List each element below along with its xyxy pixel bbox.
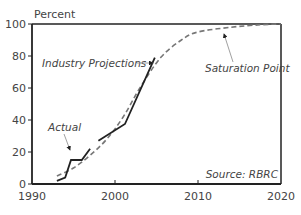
source-label: Source: RBRC	[206, 168, 279, 180]
y-axis-ticks: 0 20 40 60 80 100	[5, 18, 32, 191]
y-tick-label: 40	[12, 114, 26, 127]
y-axis-title: Percent	[34, 8, 76, 21]
x-tick-label: 1990	[18, 190, 46, 203]
y-tick-label: 100	[5, 18, 26, 31]
series-layer	[57, 24, 281, 181]
y-tick-label: 60	[12, 82, 26, 95]
x-tick-label: 2000	[101, 190, 129, 203]
x-tick-label: 2020	[267, 190, 295, 203]
saturation-point-arrow	[224, 34, 233, 62]
industry-projections-label: Industry Projections	[42, 57, 147, 69]
y-tick-label: 20	[12, 146, 26, 159]
y-tick-label: 80	[12, 50, 26, 63]
x-tick-label: 2010	[184, 190, 212, 203]
plot-frame	[32, 24, 281, 184]
projection-dashed-line	[57, 24, 281, 176]
actual-arrow	[64, 134, 70, 150]
actual-solid-line	[98, 58, 154, 141]
actual-solid-line	[57, 149, 90, 181]
percent-line-chart: Percent 0 20 40 60 80 100 1990 2000 2010…	[0, 0, 301, 215]
saturation-point-label: Saturation Point	[205, 62, 290, 74]
actual-label: Actual	[47, 121, 81, 133]
